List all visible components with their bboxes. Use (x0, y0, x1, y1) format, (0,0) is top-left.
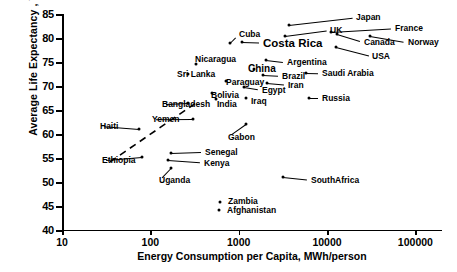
data-point-label: USA (372, 51, 390, 61)
plot-area: JapanFranceNorwayUKCanadaUSACosta RicaCu… (62, 14, 442, 230)
label-leader-line (309, 98, 318, 99)
data-point-label: Iran (288, 80, 304, 90)
x-tick-label: 10 (56, 236, 68, 248)
data-point-label: Cuba (239, 29, 260, 39)
data-point-label: Senegal (205, 147, 238, 157)
label-leader-line (168, 160, 200, 163)
y-tick-label: 45 (42, 200, 54, 212)
data-point-label: Nicaragua (195, 54, 236, 64)
label-leader-line (335, 47, 368, 56)
scatter-chart: 40455055606570758085 1010010001000010000… (0, 0, 457, 272)
x-tick-label: 100 (142, 236, 160, 248)
data-point (218, 208, 221, 211)
y-tick-label: 55 (42, 152, 54, 164)
y-tick-label: 40 (42, 224, 54, 236)
data-point-label: Sri Lanka (177, 69, 215, 79)
data-point-label: Iraq (251, 96, 267, 106)
y-tick-label: 50 (42, 176, 54, 188)
data-point-label: Egypt (262, 85, 286, 95)
data-point (219, 201, 222, 204)
y-tick-label: 70 (42, 80, 54, 92)
data-point-label: China (248, 63, 276, 74)
y-axis-title: Average Life Expectancy , Years (27, 0, 39, 139)
label-leader-line (244, 87, 258, 90)
y-tick-label: 75 (42, 56, 54, 68)
label-leader-line (263, 75, 278, 77)
x-tick-mark (239, 230, 241, 235)
label-leader-line (289, 17, 352, 25)
x-axis-title: Energy Consumption per Capita, MWh/perso… (62, 250, 442, 262)
x-tick-mark (62, 230, 64, 235)
label-leader-line (283, 177, 307, 180)
x-tick-mark (150, 230, 152, 235)
data-point-label: Russia (322, 93, 350, 103)
data-point-label: Paraguay (226, 77, 264, 87)
label-leader-line (230, 37, 237, 44)
x-tick-mark (415, 230, 417, 235)
data-point-label: Costa Rica (263, 37, 322, 49)
label-leader-line (337, 34, 360, 42)
y-tick-label: 60 (42, 128, 54, 140)
x-tick-label: 1000 (227, 236, 250, 248)
data-point-label: France (395, 23, 423, 33)
data-point (244, 96, 247, 99)
x-tick-label: 100000 (398, 236, 433, 248)
data-point-label: SouthAfrica (311, 175, 359, 185)
data-point-label: Norway (408, 37, 439, 47)
x-tick-mark (327, 230, 329, 235)
data-point-label: Japan (356, 12, 381, 22)
y-tick-label: 65 (42, 104, 54, 116)
y-tick-label: 85 (42, 8, 54, 20)
x-tick-label: 10000 (312, 236, 341, 248)
label-leader-line (156, 119, 193, 120)
data-point-label: Argentina (287, 57, 327, 67)
data-point-label: Canada (364, 37, 395, 47)
label-leader-line (306, 73, 318, 74)
label-leader-line (171, 152, 201, 154)
data-point-label: Saudi Arabia (322, 68, 374, 78)
data-point-label: Kenya (204, 158, 230, 168)
label-leader-line (242, 42, 259, 44)
y-tick-label: 80 (42, 32, 54, 44)
data-point-label: India (217, 99, 237, 109)
data-point-label: Afghanistan (227, 205, 276, 215)
